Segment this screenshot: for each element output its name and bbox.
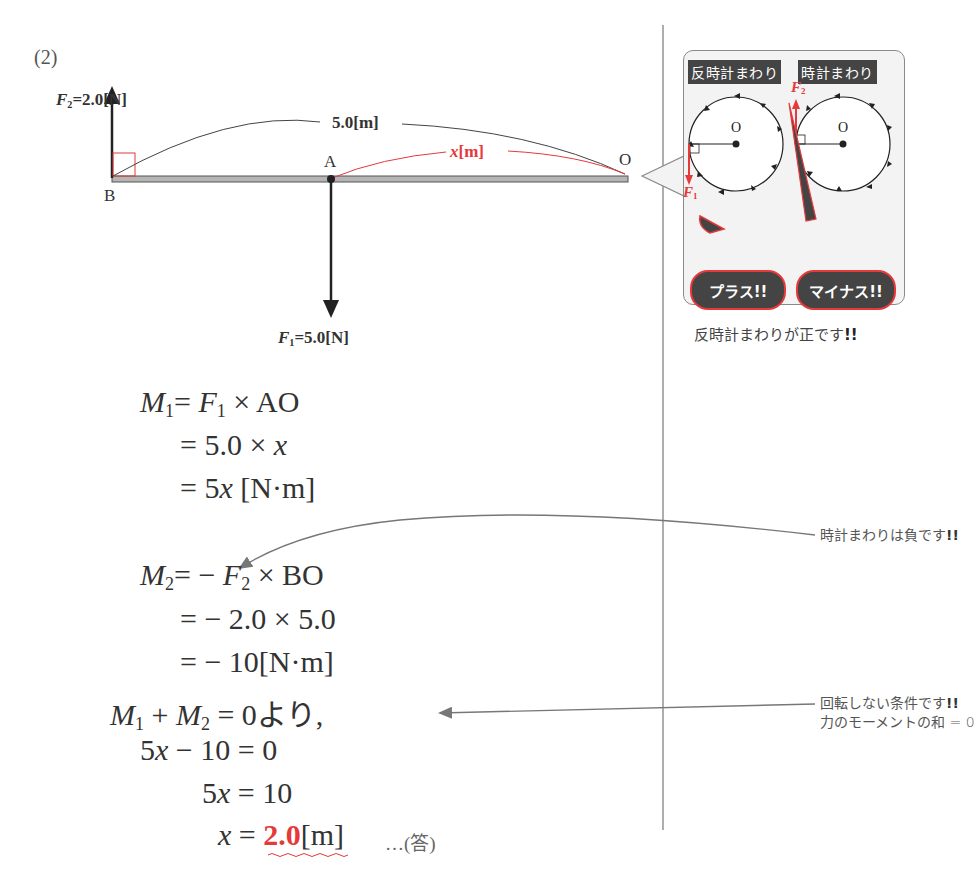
point-a-label: A xyxy=(324,152,336,172)
answer-mark: …(答) xyxy=(385,828,436,855)
f2-label: F2=2.0[N] xyxy=(56,90,127,110)
x-distance-label: x[m] xyxy=(450,142,484,162)
note-no-rotation-condition: 回転しない条件です!! 力のモーメントの和 = 0 xyxy=(820,694,975,732)
point-o-label: O xyxy=(619,150,631,170)
rotation-sign-inset: 反時計まわり 時計まわり xyxy=(683,50,905,305)
eq-m2: M2= − F2 × BO xyxy=(140,558,324,595)
problem-number: (2) xyxy=(34,46,57,69)
eq-m2-step3: = − 10[N·m] xyxy=(180,645,334,679)
inset-center-left: O xyxy=(731,120,741,136)
eq-solve-step2: 5x = 10 xyxy=(202,776,292,810)
f1-label: F1=5.0[N] xyxy=(278,328,349,348)
inset-center-right: O xyxy=(838,120,848,136)
eq-m1-step3: = 5x [N·m] xyxy=(180,471,315,505)
eq-solve-step1: 5x − 10 = 0 xyxy=(140,733,277,767)
eq-m1: M1= F1 × AO xyxy=(140,385,299,422)
eq-answer: x = 2.0[m] xyxy=(218,818,344,852)
point-b-label: B xyxy=(104,186,115,206)
inset-f2-label: F2 xyxy=(791,79,806,96)
eq-m2-step2: = − 2.0 × 5.0 xyxy=(180,602,336,636)
inset-caption: 反時計まわりが正です!! xyxy=(694,323,858,344)
note-clockwise-negative: 時計まわりは負です!! xyxy=(820,526,959,545)
answer-value: 2.0 xyxy=(263,818,301,851)
inset-f1-label: F1 xyxy=(683,184,698,201)
span-label: 5.0[m] xyxy=(332,113,379,133)
bubble-minus: マイナス!! xyxy=(796,270,896,310)
eq-moment-sum: M1 + M2 = 0より, xyxy=(110,690,323,735)
bubble-plus: プラス!! xyxy=(690,270,786,310)
f1-arrowhead-icon xyxy=(323,300,339,318)
beam xyxy=(112,176,628,182)
eq-m1-step2: = 5.0 × x xyxy=(180,428,287,462)
